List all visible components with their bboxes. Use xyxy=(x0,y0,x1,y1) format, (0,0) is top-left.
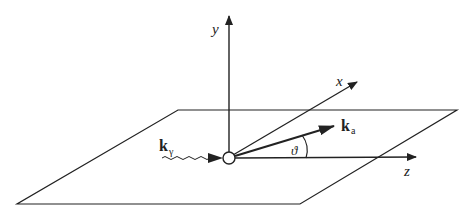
x-axis-label: x xyxy=(335,73,343,89)
outgoing-vector-arrow xyxy=(235,126,334,156)
angle-arc xyxy=(302,135,307,158)
y-axis-label: y xyxy=(210,21,219,37)
angle-label: ϑ xyxy=(291,143,298,158)
outgoing-vector-symbol: k xyxy=(341,117,350,134)
incident-vector-symbol: k xyxy=(159,137,168,154)
incident-vector-subscript: γ xyxy=(168,146,174,157)
scattering-diagram: y x z k a k γ ϑ xyxy=(0,0,473,219)
z-axis xyxy=(235,157,416,158)
interaction-point xyxy=(223,152,235,164)
z-axis-label: z xyxy=(403,163,410,179)
incident-arrowhead xyxy=(208,153,223,163)
outgoing-vector-subscript: a xyxy=(351,125,356,136)
diagram-canvas: y x z k a k γ ϑ xyxy=(0,0,473,219)
